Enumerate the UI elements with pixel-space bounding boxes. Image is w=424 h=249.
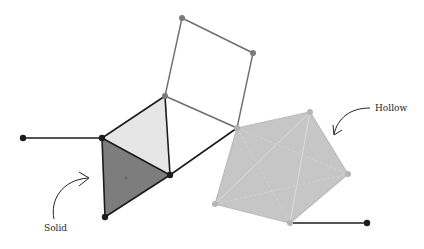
vertex [364,220,370,226]
vertex [287,220,293,226]
vertex [212,201,218,207]
vertex [99,135,105,141]
vertex [124,176,128,180]
vertex [234,125,240,131]
vertex [102,214,108,220]
hollow-label: Hollow [375,103,407,113]
vertex [345,171,351,177]
square-edges [165,18,253,128]
solid-label: Solid [44,223,67,233]
simplicial-complex-diagram: Solid Hollow [0,0,424,249]
vertex [167,172,173,178]
vertex [162,93,168,99]
vertex [20,135,26,141]
hollow-arrow-icon [333,108,370,135]
solid-arrow-icon [53,172,89,219]
vertex [307,109,313,115]
vertex [250,50,256,56]
vertex [179,15,185,21]
